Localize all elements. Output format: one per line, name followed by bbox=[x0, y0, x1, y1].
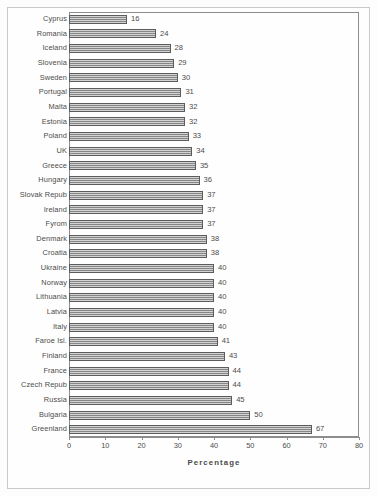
bar-value-label: 24 bbox=[160, 27, 168, 42]
category-label: Sweden bbox=[40, 71, 67, 86]
bar bbox=[69, 117, 185, 126]
bar-row: Denmark38 bbox=[69, 232, 359, 247]
bar-value-label: 36 bbox=[204, 173, 212, 188]
bar bbox=[69, 323, 214, 332]
x-axis-tick bbox=[105, 437, 106, 440]
bar-row: Lithuania40 bbox=[69, 290, 359, 305]
bar-value-label: 40 bbox=[218, 290, 226, 305]
category-label: Norway bbox=[41, 276, 67, 291]
bar-value-label: 34 bbox=[196, 144, 204, 159]
bar-row: Russia45 bbox=[69, 393, 359, 408]
category-label: Lithuania bbox=[36, 290, 67, 305]
category-label: Italy bbox=[53, 320, 67, 335]
bar-row: Ukraine40 bbox=[69, 261, 359, 276]
bar bbox=[69, 220, 203, 229]
bar-value-label: 33 bbox=[193, 129, 201, 144]
bar bbox=[69, 161, 196, 170]
category-label: Russia bbox=[44, 393, 67, 408]
bar-row: Norway40 bbox=[69, 276, 359, 291]
bar-value-label: 32 bbox=[189, 100, 197, 115]
x-axis-tick bbox=[287, 437, 288, 440]
bar-value-label: 40 bbox=[218, 320, 226, 335]
bar-row: UK34 bbox=[69, 144, 359, 159]
category-label: Greenland bbox=[32, 422, 67, 437]
category-label: Malta bbox=[48, 100, 67, 115]
category-label: Ireland bbox=[44, 203, 67, 218]
category-label: Estonia bbox=[42, 115, 67, 130]
bar-row: Czech Repub44 bbox=[69, 378, 359, 393]
category-label: Denmark bbox=[36, 232, 67, 247]
category-label: Slovak Repub bbox=[20, 188, 67, 203]
bar bbox=[69, 264, 214, 273]
bar-row: Malta32 bbox=[69, 100, 359, 115]
bar-row: Fyrom37 bbox=[69, 217, 359, 232]
bar-row: Hungary36 bbox=[69, 173, 359, 188]
bar-value-label: 38 bbox=[211, 232, 219, 247]
category-label: UK bbox=[57, 144, 67, 159]
x-axis-tick bbox=[250, 437, 251, 440]
bar-value-label: 38 bbox=[211, 246, 219, 261]
bar bbox=[69, 308, 214, 317]
bar-value-label: 16 bbox=[131, 12, 139, 27]
bar bbox=[69, 381, 229, 390]
bar-value-label: 67 bbox=[316, 422, 324, 437]
category-label: Faroe Isl. bbox=[35, 334, 67, 349]
bar-value-label: 37 bbox=[207, 217, 215, 232]
bar-value-label: 41 bbox=[222, 334, 230, 349]
x-axis-tick bbox=[359, 437, 360, 440]
bar-row: Croatia38 bbox=[69, 246, 359, 261]
bar-value-label: 44 bbox=[233, 378, 241, 393]
bar-row: Italy40 bbox=[69, 320, 359, 335]
bar bbox=[69, 103, 185, 112]
x-axis-tick bbox=[214, 437, 215, 440]
bar-row: Poland33 bbox=[69, 129, 359, 144]
x-axis-tick-label: 70 bbox=[319, 441, 327, 450]
bar-row: Greece35 bbox=[69, 159, 359, 174]
x-axis-tick-label: 40 bbox=[210, 441, 218, 450]
bar bbox=[69, 73, 178, 82]
x-axis-tick-label: 0 bbox=[67, 441, 71, 450]
category-label: Finland bbox=[42, 349, 67, 364]
bar-row: Ireland37 bbox=[69, 203, 359, 218]
x-axis-tick-label: 30 bbox=[174, 441, 182, 450]
bar-row: Cyprus16 bbox=[69, 12, 359, 27]
bar-value-label: 31 bbox=[185, 85, 193, 100]
bar bbox=[69, 367, 229, 376]
bar-value-label: 44 bbox=[233, 364, 241, 379]
bar bbox=[69, 249, 207, 258]
bar-value-label: 29 bbox=[178, 56, 186, 71]
x-axis-tick-label: 20 bbox=[137, 441, 145, 450]
category-label: Poland bbox=[43, 129, 67, 144]
bar bbox=[69, 205, 203, 214]
bar-value-label: 32 bbox=[189, 115, 197, 130]
category-label: Cyprus bbox=[43, 12, 67, 27]
bars-container: Cyprus16Romania24Iceland28Slovenia29Swed… bbox=[69, 12, 359, 437]
bar-row: Faroe Isl.41 bbox=[69, 334, 359, 349]
bar-value-label: 30 bbox=[182, 71, 190, 86]
x-axis-tick bbox=[323, 437, 324, 440]
bar-row: Bulgaria50 bbox=[69, 408, 359, 423]
x-axis-tick-label: 50 bbox=[246, 441, 254, 450]
bar-value-label: 50 bbox=[254, 408, 262, 423]
x-axis-tick-label: 60 bbox=[282, 441, 290, 450]
bar-row: Finland43 bbox=[69, 349, 359, 364]
bar bbox=[69, 411, 250, 420]
category-label: Hungary bbox=[38, 173, 67, 188]
category-label: Slovenia bbox=[38, 56, 67, 71]
bar-value-label: 28 bbox=[175, 41, 183, 56]
bar bbox=[69, 352, 225, 361]
bar bbox=[69, 15, 127, 24]
bar bbox=[69, 132, 189, 141]
bar-row: Slovenia29 bbox=[69, 56, 359, 71]
bar-value-label: 40 bbox=[218, 305, 226, 320]
bar-value-label: 40 bbox=[218, 276, 226, 291]
x-axis-tick bbox=[178, 437, 179, 440]
bar bbox=[69, 88, 181, 97]
bar-row: Greenland67 bbox=[69, 422, 359, 437]
category-label: Czech Repub bbox=[21, 378, 67, 393]
category-label: Bulgaria bbox=[39, 408, 67, 423]
x-axis-label: Percentage bbox=[69, 458, 359, 467]
bar-value-label: 35 bbox=[200, 159, 208, 174]
category-label: Ukraine bbox=[41, 261, 67, 276]
bar bbox=[69, 337, 218, 346]
